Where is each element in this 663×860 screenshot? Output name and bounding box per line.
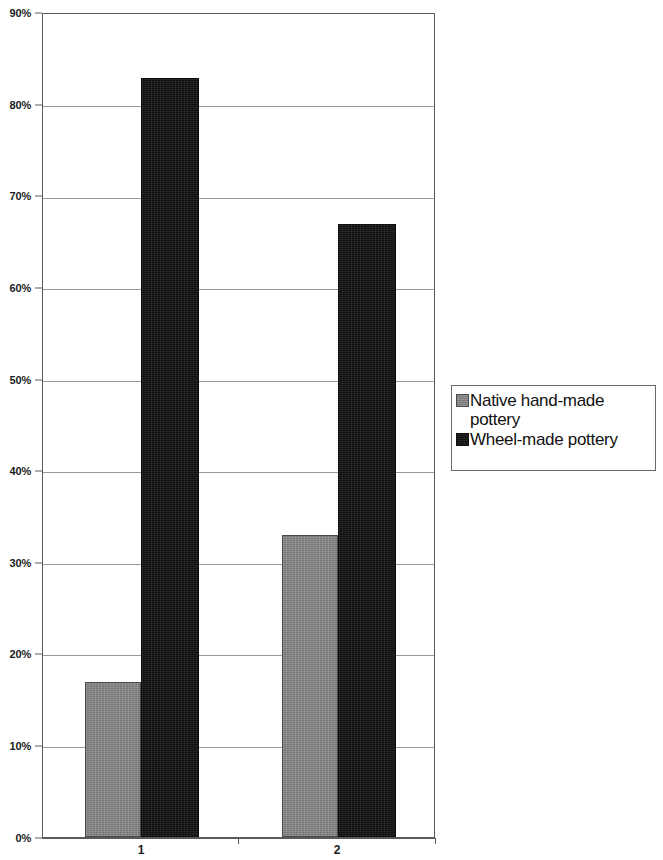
bar-group1-native bbox=[85, 682, 141, 838]
y-tick-mark-40 bbox=[35, 471, 42, 472]
y-tick-label-90: 90% bbox=[10, 7, 31, 19]
y-tick-label-0: 0% bbox=[16, 832, 32, 844]
legend-swatch-icon-wheel bbox=[456, 433, 469, 446]
y-tick-label-70: 70% bbox=[10, 190, 31, 202]
x-tick-mark-end bbox=[435, 838, 436, 844]
x-tick-mark-middle bbox=[238, 838, 239, 844]
plot-area bbox=[42, 13, 435, 838]
y-tick-label-80: 80% bbox=[10, 99, 31, 111]
legend-entry-wheel: Wheel-made pottery bbox=[456, 430, 651, 449]
y-tick-mark-80 bbox=[35, 105, 42, 106]
y-tick-mark-20 bbox=[35, 654, 42, 655]
y-tick-mark-0 bbox=[35, 838, 42, 839]
legend-entry-native: Native hand-made pottery bbox=[456, 391, 651, 429]
legend-swatch-icon-native bbox=[456, 394, 469, 407]
x-axis-line bbox=[42, 838, 436, 839]
x-tick-label-1: 1 bbox=[138, 843, 145, 857]
y-tick-label-50: 50% bbox=[10, 374, 31, 386]
legend-label-native: Native hand-made pottery bbox=[470, 391, 651, 429]
y-tick-label-30: 30% bbox=[10, 557, 31, 569]
bar-group2-wheel bbox=[338, 224, 396, 837]
y-tick-mark-60 bbox=[35, 288, 42, 289]
gridline-80 bbox=[43, 106, 434, 107]
bar-group2-native bbox=[282, 535, 338, 837]
x-tick-label-2: 2 bbox=[334, 843, 341, 857]
y-tick-label-60: 60% bbox=[10, 282, 31, 294]
legend-label-wheel: Wheel-made pottery bbox=[470, 430, 618, 449]
bar-chart: 90% 80% 70% 60% 50% 40% 30% 20% 10% 0% 1… bbox=[0, 0, 663, 860]
y-axis: 90% 80% 70% 60% 50% 40% 30% 20% 10% 0% bbox=[0, 0, 42, 860]
y-tick-label-40: 40% bbox=[10, 465, 31, 477]
y-tick-label-20: 20% bbox=[10, 648, 31, 660]
legend: Native hand-made pottery Wheel-made pott… bbox=[451, 385, 656, 471]
y-tick-mark-50 bbox=[35, 380, 42, 381]
bar-group1-wheel bbox=[141, 78, 199, 837]
y-tick-mark-30 bbox=[35, 563, 42, 564]
y-tick-mark-70 bbox=[35, 196, 42, 197]
y-tick-label-10: 10% bbox=[10, 740, 31, 752]
gridline-70 bbox=[43, 198, 434, 199]
y-tick-mark-90 bbox=[35, 13, 42, 14]
y-tick-mark-10 bbox=[35, 746, 42, 747]
